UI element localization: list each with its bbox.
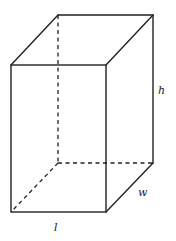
edge-top-right-depth xyxy=(106,15,153,65)
hidden-edge-bottom-left-depth xyxy=(11,163,58,212)
rectangular-prism-diagram: h w l xyxy=(0,0,176,241)
edge-top-left-depth xyxy=(11,15,58,65)
height-label: h xyxy=(158,84,165,97)
width-label: w xyxy=(138,186,148,199)
length-label: l xyxy=(54,221,58,234)
